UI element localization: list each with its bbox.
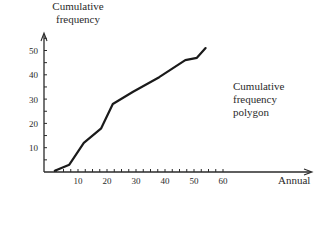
x-axis-label: Annual [278,174,310,186]
y-tick-label: 30 [29,95,39,105]
annotation-line-1: Cumulative [233,80,284,93]
x-tick-label: 50 [190,176,200,186]
x-tick-label: 60 [219,176,229,186]
y-tick-label: 10 [29,143,39,153]
annotation-line-2: frequency [233,93,284,106]
y-tick-label: 40 [29,70,39,80]
x-tick-label: 40 [161,176,171,186]
annotation-line-3: polygon [233,106,284,119]
x-tick-label: 20 [103,176,113,186]
y-tick-label: 20 [29,119,39,129]
chart-annotation: Cumulative frequency polygon [233,80,284,119]
x-tick-label: 30 [132,176,142,186]
y-tick-label: 50 [29,46,39,56]
x-tick-label: 10 [74,176,84,186]
cumulative-frequency-line [55,48,206,171]
